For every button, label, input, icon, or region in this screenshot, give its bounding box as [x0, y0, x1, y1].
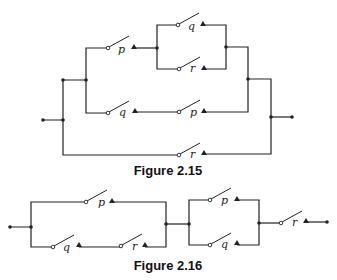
- switch-label: q: [221, 238, 228, 251]
- figure-2-15: p q r q p r: [41, 13, 294, 178]
- figure-caption: Figure 2.15: [134, 163, 203, 178]
- junction-dot: [61, 78, 65, 82]
- output-terminal: [325, 220, 329, 224]
- junction-dot: [246, 77, 250, 81]
- junction-dot: [164, 222, 168, 226]
- wire: [63, 120, 179, 155]
- junction-dot: [29, 225, 33, 229]
- junction-dot: [269, 115, 273, 119]
- switch-q: q: [176, 13, 206, 33]
- input-terminal: [41, 118, 45, 122]
- junction-dot: [61, 118, 65, 122]
- wire: [10, 202, 86, 227]
- wire: [43, 48, 108, 120]
- switch-label: p: [118, 43, 125, 56]
- switch-label: r: [292, 216, 298, 229]
- switch-q: q: [106, 101, 138, 119]
- switch-label: p: [190, 106, 197, 119]
- switch-label: r: [190, 62, 196, 75]
- junction-dot: [187, 222, 191, 226]
- figure-caption: Figure 2.16: [134, 258, 203, 273]
- switch-r: r: [177, 143, 207, 161]
- wire: [203, 25, 226, 69]
- switch-label: p: [98, 196, 105, 209]
- switch-p: p: [208, 188, 240, 207]
- wire: [237, 200, 259, 245]
- switch-label: p: [221, 194, 228, 207]
- switch-p: p: [84, 190, 115, 209]
- switch-r: r: [279, 211, 309, 229]
- switch-q: q: [208, 233, 240, 251]
- junction-dot: [257, 221, 261, 225]
- junction-dot: [155, 46, 159, 50]
- input-terminal: [8, 225, 12, 229]
- wire: [189, 200, 210, 224]
- output-terminal: [290, 115, 294, 119]
- switch-label: q: [119, 106, 126, 119]
- switch-r: r: [119, 234, 148, 253]
- wire: [157, 48, 179, 69]
- switch-p: p: [106, 36, 137, 56]
- junction-dot: [224, 45, 228, 49]
- circuit-diagrams: p q r q p r: [0, 0, 337, 280]
- switch-label: r: [190, 148, 196, 161]
- wire: [189, 224, 210, 245]
- wire: [204, 79, 271, 154]
- switch-r: r: [177, 57, 207, 75]
- switch-label: q: [63, 241, 70, 254]
- switch-label: r: [132, 240, 138, 253]
- wire: [31, 227, 53, 247]
- junction-dot: [84, 78, 88, 82]
- switch-q: q: [51, 235, 82, 254]
- wire: [86, 80, 108, 113]
- switch-p: p: [177, 100, 207, 119]
- figure-2-16: p q r p q r: [8, 188, 329, 273]
- wire: [157, 25, 178, 48]
- switch-label: q: [188, 20, 195, 33]
- wire: [112, 202, 166, 247]
